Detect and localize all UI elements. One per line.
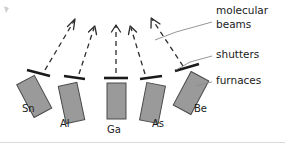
source-label-as: As — [152, 118, 164, 129]
source-label-ga: Ga — [107, 124, 121, 135]
source-label-sn: Sn — [22, 103, 35, 114]
mbe-source-diagram: Sn Al Ga As — [0, 0, 285, 143]
source-label-al: Al — [60, 118, 70, 129]
callout-label-molecular-beams-line1: molecular — [216, 4, 269, 16]
callout-label-shutters: shutters — [216, 48, 259, 60]
callout-label-molecular-beams-line2: beams — [216, 18, 251, 30]
callout-label-furnaces: furnaces — [216, 74, 261, 86]
furnace-body-ga — [107, 83, 126, 119]
source-label-be: Be — [194, 103, 207, 114]
diagram-canvas: Sn Al Ga As — [0, 0, 285, 143]
